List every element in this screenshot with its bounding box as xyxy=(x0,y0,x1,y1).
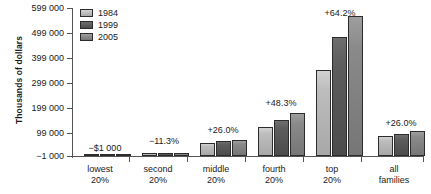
x-label-line-1: middle xyxy=(203,164,230,175)
annotation-top: +64.2% xyxy=(325,8,356,18)
x-label-line-2: 20% xyxy=(143,175,172,186)
y-tick-label: 599 000 xyxy=(31,3,64,13)
bar-1984[interactable] xyxy=(258,127,273,156)
x-label-line-1: all xyxy=(379,164,410,175)
x-label-fourth: fourth 20% xyxy=(262,164,285,186)
bar-1999[interactable] xyxy=(158,153,173,156)
bar-1984[interactable] xyxy=(142,153,157,156)
bar-group-middle xyxy=(200,140,247,156)
legend-label: 1999 xyxy=(98,20,118,30)
y-tick-mark xyxy=(67,156,72,157)
y-tick-mark xyxy=(67,108,72,109)
y-axis-line xyxy=(72,8,73,158)
x-label-line-1: lowest xyxy=(87,164,113,175)
annotation-lowest: −$1 000 xyxy=(89,143,122,153)
x-separator xyxy=(423,156,424,162)
annotation-second: −11.3% xyxy=(149,136,179,146)
x-label-line-2: families xyxy=(379,175,410,186)
y-tick-mark xyxy=(67,8,72,9)
y-tick-label: 99 000 xyxy=(36,128,64,138)
chart-container: Thousands of dollars 599 000 499 000 399… xyxy=(0,0,431,194)
y-tick-label: 499 000 xyxy=(31,28,64,38)
annotation-fourth: +48.3% xyxy=(266,98,297,108)
y-tick-label: 199 000 xyxy=(31,103,64,113)
annotation-middle: +26.0% xyxy=(208,125,239,135)
bar-1999[interactable] xyxy=(274,120,289,156)
bar-group-top xyxy=(316,16,363,156)
x-label-middle: middle 20% xyxy=(203,164,230,186)
x-label-line-2: 20% xyxy=(262,175,285,186)
legend-label: 1984 xyxy=(98,8,118,18)
legend-item-2005: 2005 xyxy=(80,32,118,42)
legend-swatch-icon xyxy=(80,33,93,41)
bar-1999[interactable] xyxy=(332,37,347,156)
x-label-top: top 20% xyxy=(323,164,341,186)
bar-group-all-families xyxy=(378,131,425,156)
bar-1984[interactable] xyxy=(316,70,331,156)
y-tick-mark xyxy=(67,133,72,134)
x-label-line-1: top xyxy=(323,164,341,175)
legend: 1984 1999 2005 xyxy=(80,8,118,42)
x-separator xyxy=(187,156,188,162)
bar-group-second xyxy=(142,153,189,156)
x-label-all-families: all families xyxy=(379,164,410,186)
y-tick-mark xyxy=(67,58,72,59)
bar-2005[interactable] xyxy=(174,153,189,156)
x-separator xyxy=(361,156,362,162)
bar-group-fourth xyxy=(258,113,305,156)
annotation-all-families: +26.0% xyxy=(386,118,417,128)
x-label-lowest: lowest 20% xyxy=(87,164,113,186)
x-label-line-2: 20% xyxy=(203,175,230,186)
legend-label: 2005 xyxy=(98,32,118,42)
bar-2005[interactable] xyxy=(232,140,247,156)
x-separator xyxy=(303,156,304,162)
x-label-line-1: second xyxy=(143,164,172,175)
legend-swatch-icon xyxy=(80,21,93,29)
bar-1984[interactable] xyxy=(200,143,215,156)
x-label-line-1: fourth xyxy=(262,164,285,175)
bar-group-lowest xyxy=(84,154,131,156)
x-separator xyxy=(245,156,246,162)
x-label-second: second 20% xyxy=(143,164,172,186)
bar-2005[interactable] xyxy=(348,16,363,156)
bar-2005[interactable] xyxy=(410,131,425,156)
x-label-line-2: 20% xyxy=(87,175,113,186)
bar-1999[interactable] xyxy=(100,154,115,156)
x-axis-line xyxy=(72,156,424,157)
y-tick-label: 299 000 xyxy=(31,78,64,88)
y-tick-mark xyxy=(67,33,72,34)
x-label-line-2: 20% xyxy=(323,175,341,186)
y-tick-label: −1 000 xyxy=(36,151,64,161)
bar-1999[interactable] xyxy=(394,134,409,156)
y-tick-mark xyxy=(67,83,72,84)
bar-2005[interactable] xyxy=(290,113,305,156)
bar-2005[interactable] xyxy=(116,154,131,156)
bar-1984[interactable] xyxy=(84,154,99,156)
legend-swatch-icon xyxy=(80,9,93,17)
y-axis-title: Thousands of dollars xyxy=(14,10,24,150)
bar-1984[interactable] xyxy=(378,136,393,156)
y-tick-label: 399 000 xyxy=(31,53,64,63)
legend-item-1999: 1999 xyxy=(80,20,118,30)
x-separator xyxy=(129,156,130,162)
legend-item-1984: 1984 xyxy=(80,8,118,18)
bar-1999[interactable] xyxy=(216,141,231,156)
plot-area: 599 000 499 000 399 000 299 000 199 000 … xyxy=(72,8,424,158)
